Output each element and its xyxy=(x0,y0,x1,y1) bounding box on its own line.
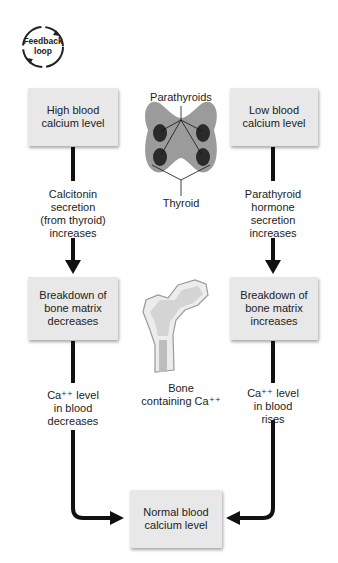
high-calcium-box: High blood calcium level xyxy=(28,88,118,146)
box-line: increases xyxy=(250,315,297,328)
box-line: decreases xyxy=(48,315,99,328)
step-line: increases xyxy=(18,227,128,240)
step-line: decreases xyxy=(18,415,128,428)
step-line: secretion xyxy=(18,201,128,214)
bone-breakdown-increases-box: Breakdown of bone matrix increases xyxy=(230,277,318,340)
step-line: Ca⁺⁺ level xyxy=(18,389,128,402)
bone-label-line: Bone xyxy=(121,382,241,395)
step-line: hormone xyxy=(218,201,328,214)
step-line: (from thyroid) xyxy=(18,214,128,227)
box-line: Breakdown of xyxy=(39,289,106,302)
bone-label-line: containing Ca⁺⁺ xyxy=(121,395,241,408)
box-line: bone matrix xyxy=(245,302,302,315)
step-line: rises xyxy=(218,413,328,426)
step-line: in blood xyxy=(18,402,128,415)
box-line: Normal blood xyxy=(143,506,208,519)
step-line: Parathyroid xyxy=(218,188,328,201)
step-line: secretion xyxy=(218,214,328,227)
low-calcium-label: Low blood calcium level xyxy=(240,104,308,130)
parathyroid-hormone-step: Parathyroid hormone secretion increases xyxy=(218,188,328,240)
high-calcium-label: High blood calcium level xyxy=(38,104,108,130)
box-line: calcium level xyxy=(145,519,208,532)
bone-label: Bone containing Ca⁺⁺ xyxy=(121,382,241,408)
bone-breakdown-decreases-box: Breakdown of bone matrix decreases xyxy=(28,277,118,340)
normal-calcium-box: Normal blood calcium level xyxy=(130,490,222,548)
ca-decreases-step: Ca⁺⁺ level in blood decreases xyxy=(18,389,128,428)
box-line: bone matrix xyxy=(44,302,101,315)
step-line: increases xyxy=(218,227,328,240)
low-calcium-box: Low blood calcium level xyxy=(230,88,318,146)
thyroid-label: Thyroid xyxy=(131,197,231,210)
box-line: Breakdown of xyxy=(240,289,307,302)
parathyroids-label: Parathyroids xyxy=(131,91,231,104)
bone-illustration xyxy=(143,280,208,372)
thyroid-illustration xyxy=(145,102,217,196)
calcitonin-step: Calcitonin secretion (from thyroid) incr… xyxy=(18,188,128,240)
step-line: Calcitonin xyxy=(18,188,128,201)
